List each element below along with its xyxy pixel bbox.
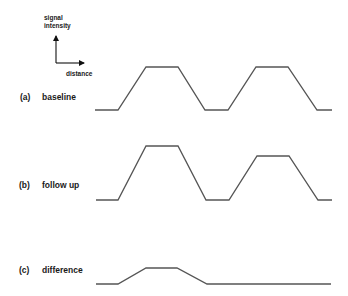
- row-tag: (a): [20, 92, 31, 102]
- row-difference: (c) difference: [19, 265, 331, 284]
- x-axis-label: distance: [66, 70, 93, 77]
- row-label: baseline: [42, 92, 76, 102]
- waveform-difference: [96, 268, 331, 284]
- diagram-canvas: signal intensity distance (a) baseline (…: [0, 0, 348, 296]
- row-tag: (c): [19, 265, 30, 275]
- waveform-follow-up: [96, 146, 332, 200]
- y-axis-label-line1: signal: [44, 14, 63, 22]
- row-tag: (b): [19, 180, 30, 190]
- axes-legend: signal intensity distance: [44, 14, 93, 77]
- row-follow-up: (b) follow up: [19, 146, 332, 200]
- waveform-baseline: [95, 67, 332, 110]
- row-label: difference: [42, 265, 83, 275]
- y-axis-label-line2: intensity: [44, 22, 71, 30]
- row-label: follow up: [42, 180, 79, 190]
